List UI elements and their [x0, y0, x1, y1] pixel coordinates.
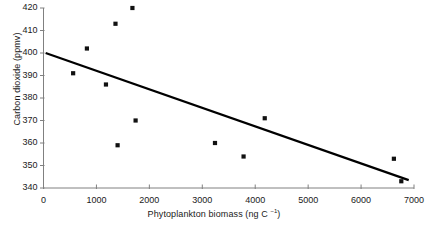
data-point	[241, 154, 245, 158]
data-point	[85, 46, 89, 50]
data-point	[392, 157, 396, 161]
data-point	[130, 6, 134, 10]
data-point	[399, 179, 403, 183]
data-point	[71, 71, 75, 75]
data-point	[213, 141, 217, 145]
data-point	[104, 82, 108, 86]
scatter-chart: Carbon dioxide (ppmv) Phytoplankton biom…	[0, 0, 428, 229]
trendline	[46, 53, 409, 180]
data-point	[116, 143, 120, 147]
trendline-segment	[46, 53, 409, 180]
plot-area	[0, 0, 428, 229]
data-point	[263, 116, 267, 120]
data-point	[133, 118, 137, 122]
data-point	[113, 22, 117, 26]
data-points-group	[71, 6, 403, 183]
